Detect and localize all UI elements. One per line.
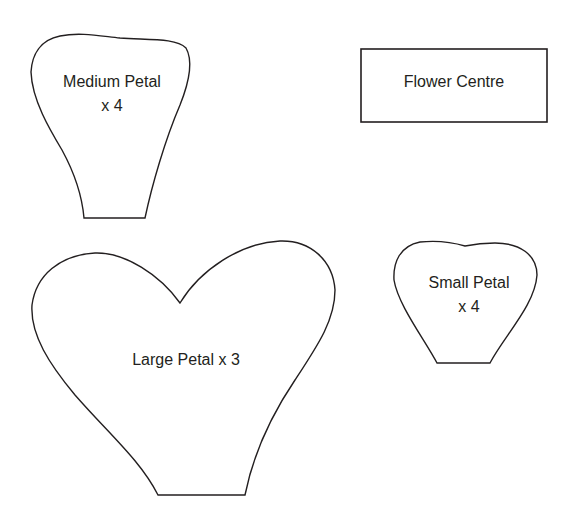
large-petal-name: Large Petal x 3 — [106, 348, 266, 372]
large-petal-label: Large Petal x 3 — [106, 348, 266, 372]
small-petal-name: Small Petal — [414, 271, 524, 295]
medium-petal-quantity: x 4 — [42, 94, 182, 118]
flower-centre-name: Flower Centre — [361, 70, 547, 94]
medium-petal-label: Medium Petal x 4 — [42, 70, 182, 118]
medium-petal-name: Medium Petal — [42, 70, 182, 94]
small-petal-label: Small Petal x 4 — [414, 271, 524, 319]
small-petal-quantity: x 4 — [414, 295, 524, 319]
medium-petal-outline — [31, 34, 190, 218]
flower-centre-label: Flower Centre — [361, 70, 547, 94]
